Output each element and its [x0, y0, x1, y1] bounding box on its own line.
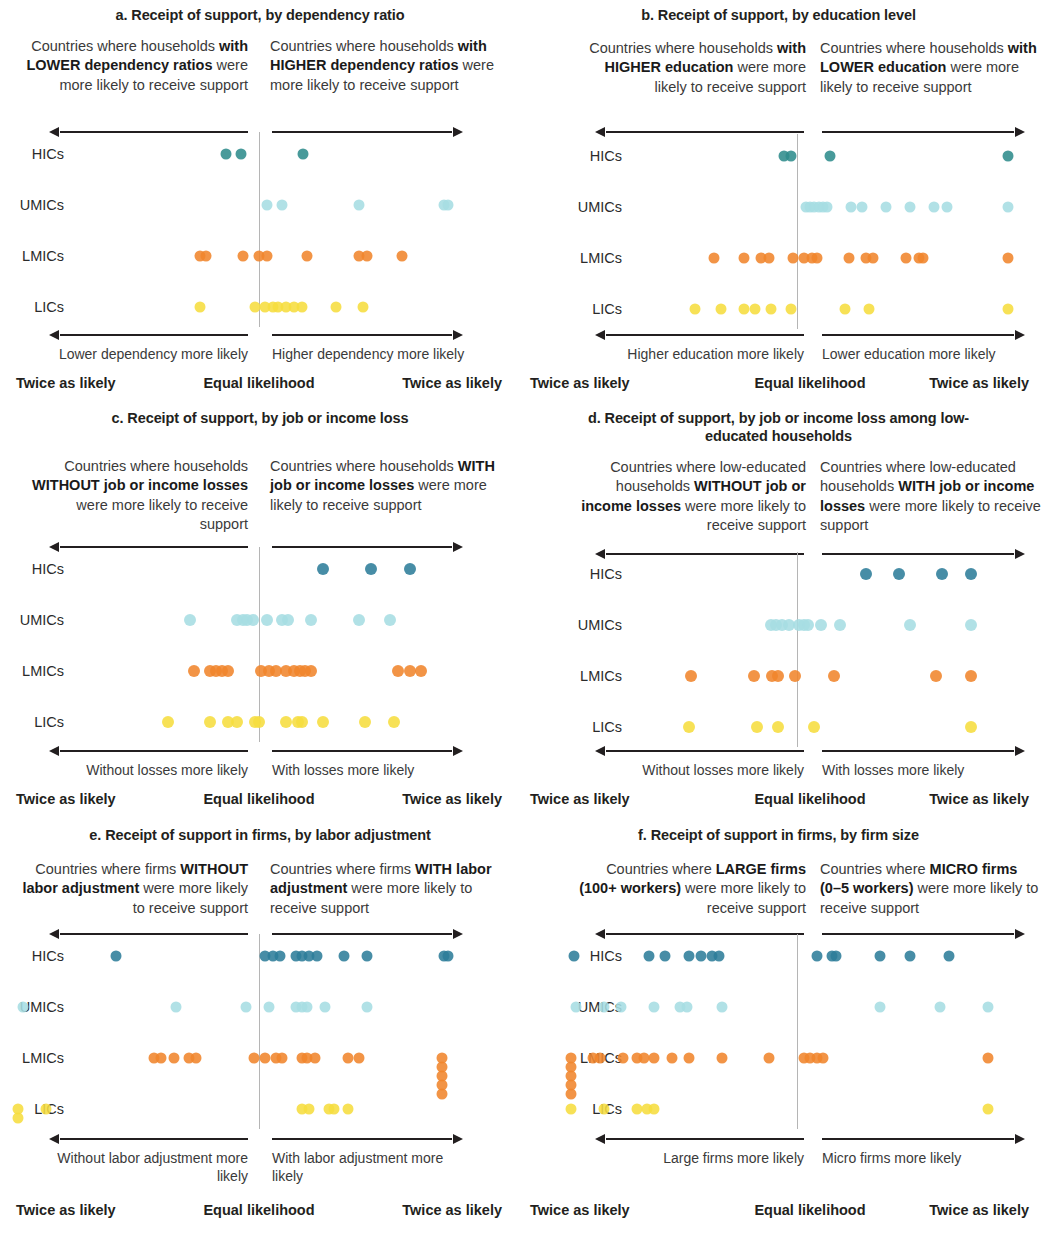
- data-point: [802, 619, 814, 631]
- data-point: [359, 716, 371, 728]
- data-point: [708, 253, 719, 264]
- data-point: [317, 563, 329, 575]
- data-point: [338, 951, 349, 962]
- row-label-lmics: LMICs: [0, 1050, 64, 1066]
- panel-b-scale-left: Twice as likely: [530, 375, 630, 391]
- data-point: [354, 1053, 365, 1064]
- panel-b-axis-arrow-right-icon: [822, 334, 1014, 336]
- data-point: [365, 563, 377, 575]
- panel-f-axis-arrow-right-icon: [822, 1138, 1014, 1140]
- panel-a-arrow-right-icon: [272, 131, 452, 133]
- panel-e-axis-arrow-left-icon: [60, 1138, 248, 1140]
- panel-e: e. Receipt of support in firms, by labor…: [0, 820, 520, 1245]
- data-point: [1002, 151, 1013, 162]
- data-point: [839, 304, 850, 315]
- data-point: [930, 670, 942, 682]
- panel-c: c. Receipt of support, by job or income …: [0, 405, 520, 820]
- data-point: [763, 1053, 774, 1064]
- panel-e-header-right: Countries where firms WITH labor adjustm…: [270, 860, 502, 918]
- data-point: [310, 1053, 321, 1064]
- data-point: [965, 568, 977, 580]
- panel-e-title: e. Receipt of support in firms, by labor…: [0, 826, 520, 844]
- panel-f: f. Receipt of support in firms, by firm …: [520, 820, 1037, 1245]
- data-point: [983, 1104, 994, 1115]
- data-point: [191, 1053, 202, 1064]
- panel-f-scale-center: Equal likelihood: [720, 1202, 900, 1218]
- panel-d-scale-right: Twice as likely: [929, 791, 1029, 807]
- panel-d-arrow-left-icon: [606, 553, 804, 555]
- data-point: [739, 304, 750, 315]
- panel-d-footnote-left: Without losses more likely: [586, 761, 804, 779]
- data-point: [275, 951, 286, 962]
- data-point: [900, 253, 911, 264]
- data-point: [965, 721, 977, 733]
- panel-e-footnote-left: Without labor adjustment more likely: [30, 1149, 248, 1185]
- data-point: [789, 670, 801, 682]
- data-point: [867, 253, 878, 264]
- data-point: [881, 202, 892, 213]
- panel-f-plot: HICsUMICsLMICsLICs: [520, 942, 1037, 1122]
- data-point: [660, 951, 671, 962]
- data-point: [786, 304, 797, 315]
- equal-likelihood-axis: [797, 552, 798, 747]
- data-point: [156, 1053, 167, 1064]
- data-point: [261, 251, 272, 262]
- panel-c-axis-arrow-right-icon: [272, 750, 452, 752]
- panel-a-plot: HICsUMICsLMICsLICs: [0, 140, 520, 320]
- row-label-lmics: LMICs: [520, 668, 622, 684]
- data-point: [277, 1053, 288, 1064]
- panel-a-axis-arrow-right-icon: [272, 334, 452, 336]
- data-point: [282, 614, 294, 626]
- panel-d-header-left: Countries where low-educated households …: [566, 458, 806, 536]
- data-point: [751, 721, 763, 733]
- data-point: [765, 304, 776, 315]
- panel-a-header-right: Countries where households with HIGHER d…: [270, 37, 502, 95]
- data-point: [716, 304, 727, 315]
- data-point: [824, 151, 835, 162]
- panel-e-arrow-right-icon: [272, 933, 452, 935]
- panel-b-arrow-left-icon: [606, 131, 804, 133]
- data-point: [302, 251, 313, 262]
- data-point: [162, 716, 174, 728]
- data-point: [404, 563, 416, 575]
- data-point: [298, 149, 309, 160]
- data-point: [928, 202, 939, 213]
- data-point: [689, 304, 700, 315]
- row-label-umics: UMICs: [520, 617, 622, 633]
- panel-e-plot: HICsUMICsLMICsLICs: [0, 942, 520, 1122]
- panel-c-title: c. Receipt of support, by job or income …: [0, 409, 520, 427]
- data-point: [643, 951, 654, 962]
- data-point: [304, 1104, 315, 1115]
- panel-b-arrow-right-icon: [822, 131, 1014, 133]
- equal-likelihood-axis: [797, 934, 798, 1129]
- panel-d-header-right: Countries where low-educated households …: [820, 458, 1042, 536]
- panel-c-scale-center: Equal likelihood: [169, 791, 349, 807]
- data-point: [1002, 304, 1013, 315]
- row-label-hics: HICs: [0, 948, 64, 964]
- data-point: [362, 1002, 373, 1013]
- row-label-umics: UMICs: [0, 999, 64, 1015]
- data-point: [904, 951, 915, 962]
- data-point: [681, 1002, 692, 1013]
- data-point: [296, 716, 308, 728]
- panel-d-axis-arrow-right-icon: [822, 750, 1014, 752]
- panel-b-axis-arrow-left-icon: [606, 334, 804, 336]
- panel-d-scale-center: Equal likelihood: [720, 791, 900, 807]
- panel-b-scale-right: Twice as likely: [929, 375, 1029, 391]
- panel-d-footnote-right: With losses more likely: [822, 761, 1037, 779]
- data-point: [648, 1002, 659, 1013]
- data-point: [714, 951, 725, 962]
- panel-c-header-left: Countries where households WITHOUT job o…: [26, 457, 248, 535]
- data-point: [302, 1002, 313, 1013]
- panel-b-header-right: Countries where households with LOWER ed…: [820, 39, 1042, 97]
- data-point: [594, 1053, 605, 1064]
- row-label-lmics: LMICs: [0, 663, 64, 679]
- data-point: [936, 568, 948, 580]
- data-point: [893, 568, 905, 580]
- data-point: [188, 665, 200, 677]
- data-point: [566, 1104, 577, 1115]
- panel-c-arrow-right-icon: [272, 546, 452, 548]
- data-point: [305, 614, 317, 626]
- data-point: [1002, 253, 1013, 264]
- data-point: [857, 202, 868, 213]
